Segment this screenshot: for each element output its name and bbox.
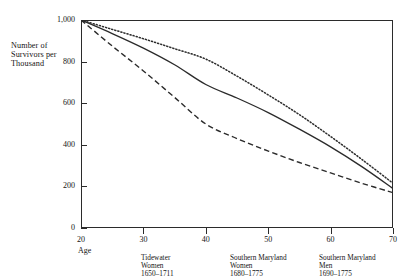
x-axis-title: Age	[78, 247, 91, 255]
x-tick-mark	[268, 228, 269, 234]
series-annotation: TidewaterWomen1650–1711	[141, 254, 174, 279]
series-annotation-line: 1690–1775	[319, 270, 376, 278]
series-line	[81, 20, 393, 183]
series-line	[81, 20, 393, 188]
y-axis-title-line1: Number of	[11, 41, 69, 50]
series-annotation-line: 1680–1775	[230, 270, 287, 278]
series-annotation: Southern MarylandMen1690–1775	[319, 254, 376, 279]
y-tick-mark	[81, 228, 87, 229]
series-layer	[81, 20, 393, 228]
series-annotation: Southern MarylandWomen1680–1775	[230, 254, 287, 279]
chart-figure: Number of Survivors per Thousand 0200400…	[0, 0, 415, 280]
x-tick-label: 50	[253, 236, 283, 244]
series-annotation-line: 1650–1711	[141, 270, 174, 278]
y-tick-label: 200	[29, 182, 75, 190]
y-tick-label: 1,000	[29, 16, 75, 24]
y-tick-mark	[81, 62, 87, 63]
y-tick-mark	[81, 186, 87, 187]
x-tick-label: 40	[191, 236, 221, 244]
y-tick-label: 800	[29, 58, 75, 66]
x-tick-mark	[331, 228, 332, 234]
y-tick-label: 600	[29, 99, 75, 107]
series-line	[81, 20, 393, 193]
y-tick-label: 400	[29, 141, 75, 149]
y-tick-mark	[81, 145, 87, 146]
y-tick-mark	[81, 103, 87, 104]
x-tick-mark	[206, 228, 207, 234]
x-tick-label: 70	[378, 236, 408, 244]
x-tick-mark	[393, 228, 394, 234]
x-tick-mark	[143, 228, 144, 234]
x-tick-label: 20	[66, 236, 96, 244]
y-tick-mark	[81, 20, 87, 21]
x-tick-label: 60	[316, 236, 346, 244]
x-tick-label: 30	[128, 236, 158, 244]
y-tick-label: 0	[29, 224, 75, 232]
